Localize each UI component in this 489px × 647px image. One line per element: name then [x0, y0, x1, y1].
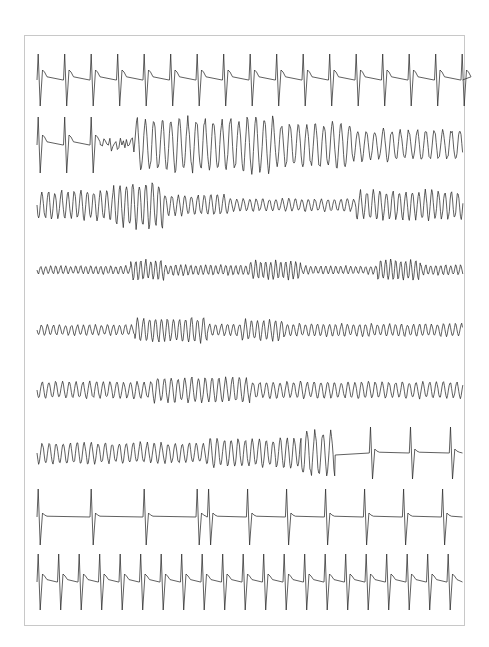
ecg-strip-3 [37, 183, 463, 230]
ecg-strip-8 [37, 489, 463, 545]
ecg-strip-9 [37, 554, 463, 610]
ecg-strip-5 [37, 318, 463, 344]
ecg-strip-1 [37, 54, 471, 106]
ecg-strip-7 [37, 427, 463, 479]
ecg-strip-6 [37, 377, 463, 404]
ecg-traces [0, 0, 489, 647]
ecg-strip-2 [37, 116, 463, 175]
ecg-strip-4 [37, 259, 463, 280]
